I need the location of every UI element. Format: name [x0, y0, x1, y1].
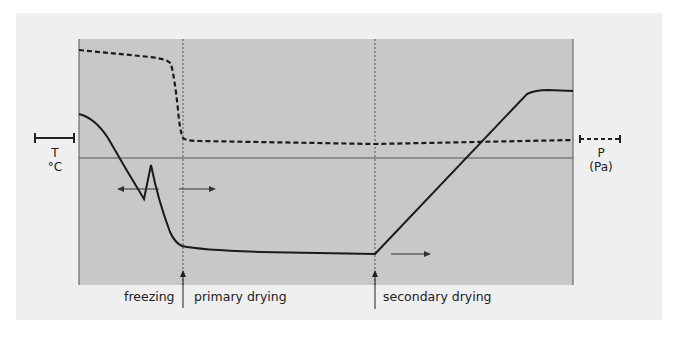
phase-label-secondary-drying: secondary drying	[383, 289, 492, 304]
pressure-unit: (Pa)	[583, 160, 619, 174]
pressure-symbol: P	[583, 146, 619, 160]
pressure-axis-label: P (Pa)	[583, 146, 619, 174]
arrow-up-primary-drying-start	[180, 270, 186, 308]
plot-area	[79, 39, 573, 285]
temperature-scale-bar	[35, 133, 74, 143]
arrow-up-secondary-drying-start	[372, 270, 378, 309]
freeze-drying-diagram	[0, 0, 682, 337]
phase-label-primary-drying: primary drying	[194, 289, 287, 304]
temperature-axis-label: T °C	[40, 146, 70, 174]
phase-label-freezing: freezing	[124, 289, 175, 304]
temperature-unit: °C	[40, 160, 70, 174]
temperature-symbol: T	[40, 146, 70, 160]
pressure-scale-bar	[580, 135, 620, 143]
